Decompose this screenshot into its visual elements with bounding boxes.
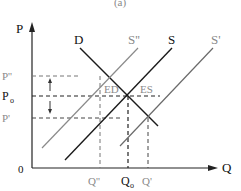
label-excess-supply: ES xyxy=(140,83,153,95)
up-arrow-icon xyxy=(48,78,52,83)
label-q-double-prime: Q'' xyxy=(88,175,100,187)
x-axis-arrow-icon xyxy=(208,165,218,171)
supply-curve-s xyxy=(65,48,172,160)
label-q-eq-sub: o xyxy=(130,181,134,190)
supply-demand-diagram: (a) P Q 0 D S'' S S' P'' P o P' Q'' Q o … xyxy=(0,0,241,191)
label-p-eq: P xyxy=(2,89,9,103)
label-p-double-prime: P'' xyxy=(2,70,12,82)
label-excess-demand: ED xyxy=(104,83,119,95)
label-s2: S'' xyxy=(128,32,140,47)
caption: (a) xyxy=(114,0,127,9)
y-axis-arrow-icon xyxy=(29,22,35,32)
x-axis-label: Q xyxy=(222,160,232,175)
label-s: S xyxy=(168,32,175,47)
origin-label: 0 xyxy=(18,163,24,175)
label-q-eq: Q xyxy=(121,174,130,188)
label-d: D xyxy=(74,32,83,47)
y-axis-label: P xyxy=(16,21,23,36)
label-p-prime: P' xyxy=(2,112,10,124)
supply-curve-s1 xyxy=(120,48,213,146)
label-q-prime: Q' xyxy=(142,175,152,187)
label-p-eq-sub: o xyxy=(10,96,14,105)
down-arrow-icon xyxy=(48,109,52,114)
label-s1: S' xyxy=(211,32,221,47)
